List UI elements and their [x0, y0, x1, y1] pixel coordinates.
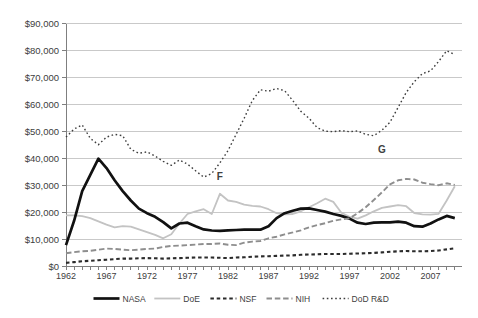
- nasa-line: [66, 159, 455, 245]
- legend-label-dod-r-d: DoD R&D: [352, 294, 389, 304]
- x-axis-tick-label: 2002: [380, 271, 400, 281]
- y-axis-tick-label: $30,000: [25, 180, 59, 191]
- x-axis-tick-label: 1962: [56, 271, 76, 281]
- x-axis-tick-label: 1982: [218, 271, 238, 281]
- x-axis-tick-label: 1967: [96, 271, 116, 281]
- legend-label-nasa: NASA: [123, 294, 146, 304]
- x-axis-tick-label: 1972: [137, 271, 157, 281]
- dod-r-d-line: [66, 51, 455, 177]
- nih-line: [66, 179, 455, 253]
- y-axis-tick-label: $20,000: [25, 207, 59, 218]
- y-axis-tick-label: $60,000: [25, 99, 59, 110]
- y-axis-tick-label: $70,000: [25, 72, 59, 83]
- y-axis-tick-label: $40,000: [25, 153, 59, 164]
- x-axis-tick-label: 1997: [339, 271, 359, 281]
- x-axis-tick-label: 1992: [299, 271, 319, 281]
- x-axis-tick-label: 2007: [420, 271, 440, 281]
- legend-label-nih: NIH: [296, 294, 311, 304]
- x-axis-tick-label: 1977: [177, 271, 197, 281]
- chart-canvas: $0$10,000$20,000$30,000$40,000$50,000$60…: [0, 0, 478, 318]
- y-axis-tick-label: $90,000: [25, 18, 59, 29]
- x-axis-tick-label: 1987: [258, 271, 278, 281]
- y-axis-tick-label: $10,000: [25, 234, 59, 245]
- annotation-f: F: [217, 171, 223, 182]
- annotation-g: G: [378, 144, 386, 155]
- legend-label-doe: DoE: [183, 294, 200, 304]
- legend-label-nsf: NSF: [239, 294, 256, 304]
- y-axis-tick-label: $50,000: [25, 126, 59, 137]
- y-axis-tick-label: $80,000: [25, 45, 59, 56]
- federal-rd-budget-chart: $0$10,000$20,000$30,000$40,000$50,000$60…: [0, 0, 478, 318]
